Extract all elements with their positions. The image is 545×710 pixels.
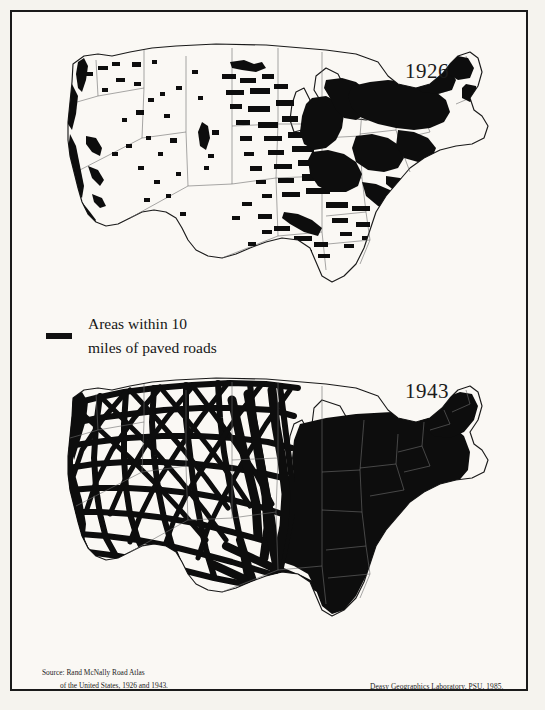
- source-line-1: Source: Rand McNally Road Atlas: [42, 667, 168, 680]
- legend-black-bar-swatch: [46, 333, 72, 339]
- figure-root: 1926 1943 Areas within 10 miles of paved…: [0, 0, 545, 710]
- year-label-1926: 1926: [405, 59, 449, 84]
- source-line-2: of the United States, 1926 and 1943.: [42, 680, 168, 693]
- credit-note: Deasy Geographics Laboratory, PSU, 1985.: [370, 682, 503, 691]
- legend-label: Areas within 10 miles of paved roads: [88, 312, 217, 360]
- figure-frame: 1926 1943 Areas within 10 miles of paved…: [10, 10, 528, 691]
- source-note: Source: Rand McNally Road Atlas of the U…: [42, 667, 168, 693]
- legend: Areas within 10 miles of paved roads: [46, 312, 217, 360]
- year-label-1943: 1943: [405, 379, 449, 404]
